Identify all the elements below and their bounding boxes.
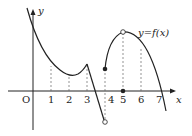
tick-2: 2 xyxy=(66,94,72,105)
filled-point-x5 xyxy=(121,89,126,94)
open-point-x5 xyxy=(121,30,126,35)
x-axis-label: x xyxy=(176,94,182,105)
function-label: y=f(x) xyxy=(137,27,169,38)
tick-5: 5 xyxy=(120,94,126,105)
guide-lines xyxy=(51,34,141,120)
tick-7: 7 xyxy=(156,94,162,105)
open-point-x4 xyxy=(103,120,108,125)
curve-segment-2 xyxy=(87,64,104,120)
y-axis-label: y xyxy=(37,5,44,16)
tick-3: 3 xyxy=(84,94,90,105)
tick-4: 4 xyxy=(108,94,114,105)
tick-6: 6 xyxy=(138,94,144,105)
origin-label: O xyxy=(22,94,30,105)
curve-segment-1 xyxy=(27,8,87,75)
y-axis-arrow-icon xyxy=(31,9,36,15)
tick-1: 1 xyxy=(48,94,54,105)
function-graph: O y x y=f(x) 1 2 3 4 5 6 7 xyxy=(0,0,192,136)
filled-point-x4 xyxy=(103,67,108,72)
x-axis-arrow-icon xyxy=(170,89,176,94)
graph-canvas: O y x y=f(x) 1 2 3 4 5 6 7 xyxy=(0,0,192,136)
